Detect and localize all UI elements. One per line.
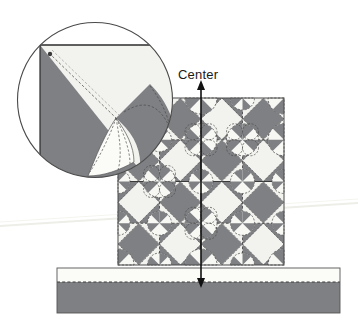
center-label: Center (178, 68, 218, 81)
figure-root: Center (0, 0, 358, 323)
quilt-diagram-svg (0, 0, 358, 323)
border-strip (57, 268, 340, 313)
corner-marker-dot (48, 52, 52, 56)
